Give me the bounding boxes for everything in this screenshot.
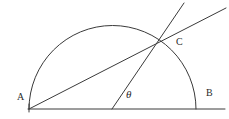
point-label-b: B [206, 88, 213, 98]
point-label-a: A [17, 92, 24, 102]
angle-label-theta: θ [126, 89, 131, 100]
point-label-c: C [176, 37, 183, 47]
radius-line-center-through-c [112, 3, 184, 109]
geometry-canvas [0, 0, 229, 119]
geometry-figure: A B C θ [0, 0, 229, 119]
